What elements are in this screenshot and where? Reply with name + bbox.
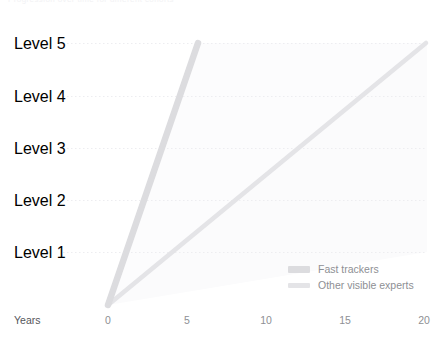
chart-plot-area: Level 5 Level 4 Level 3 Level 2 Level 1 … <box>0 0 444 349</box>
x-tick-5: 5 <box>172 313 202 327</box>
chart-legend: Fast trackers Other visible experts <box>288 262 438 294</box>
y-tick-level-4: Level 4 <box>14 90 66 103</box>
y-tick-label: Level 1 <box>14 244 66 261</box>
x-tick-20: 20 <box>409 313 439 327</box>
y-tick-level-2: Level 2 <box>14 194 66 207</box>
legend-item-other-visible-experts: Other visible experts <box>288 278 438 292</box>
legend-label: Other visible experts <box>318 278 414 292</box>
y-tick-label: Level 2 <box>14 192 66 209</box>
chart-svg <box>0 0 444 349</box>
y-tick-level-3: Level 3 <box>14 142 66 155</box>
legend-swatch-icon <box>288 266 310 273</box>
legend-swatch-icon <box>288 283 310 288</box>
chart-page: Progression over time for different coho… <box>0 0 444 349</box>
x-tick-0: 0 <box>93 313 123 327</box>
y-tick-label: Level 3 <box>14 140 66 157</box>
x-tick-10: 10 <box>251 313 281 327</box>
legend-item-fast-trackers: Fast trackers <box>288 262 438 276</box>
y-tick-level-5: Level 5 <box>14 37 66 50</box>
x-tick-15: 15 <box>330 313 360 327</box>
y-tick-level-1: Level 1 <box>14 246 66 259</box>
y-tick-label: Level 4 <box>14 88 66 105</box>
legend-label: Fast trackers <box>318 262 379 276</box>
x-axis-title: Years <box>14 313 40 327</box>
y-tick-label: Level 5 <box>14 35 66 52</box>
